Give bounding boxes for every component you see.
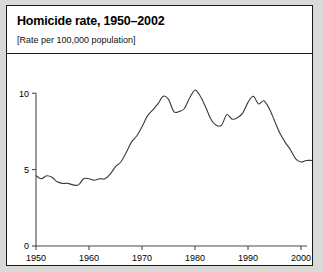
chart-subtitle: [Rate per 100,000 population] <box>17 35 136 45</box>
data-line-homicide-rate <box>36 90 312 185</box>
x-tick-label-1950: 1950 <box>26 253 46 263</box>
x-tick-label-2000: 2000 <box>291 253 311 263</box>
y-tick-label-5: 5 <box>24 165 29 175</box>
x-tick-label-1990: 1990 <box>238 253 258 263</box>
x-tick-label-1960: 1960 <box>79 253 99 263</box>
x-tick-label-1980: 1980 <box>185 253 205 263</box>
chart-panel: Homicide rate, 1950–2002 [Rate per 100,0… <box>6 5 313 266</box>
y-axis: 0510 <box>19 89 36 252</box>
y-tick-label-10: 10 <box>19 89 29 99</box>
x-axis: 195019601970198019902000 <box>26 246 311 263</box>
screenshot-root: Homicide rate, 1950–2002 [Rate per 100,0… <box>0 0 323 272</box>
line-chart: 0510 195019601970198019902000 <box>7 53 312 265</box>
x-tick-label-1970: 1970 <box>132 253 152 263</box>
chart-canvas: 0510 195019601970198019902000 <box>7 53 312 265</box>
y-tick-label-0: 0 <box>24 241 29 251</box>
page-title: Homicide rate, 1950–2002 <box>17 14 164 28</box>
